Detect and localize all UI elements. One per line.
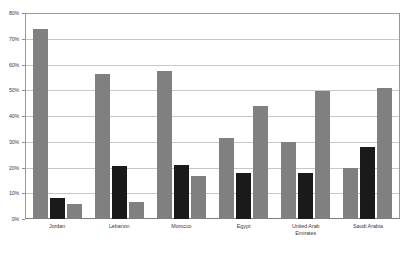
bar [50, 198, 65, 219]
bar [67, 204, 82, 219]
bar-chart: 80%70%60%50%40%30%20%10%0% JordanLebanon… [0, 0, 411, 255]
bar [191, 176, 206, 219]
bar [219, 138, 234, 219]
x-tick-label: Lebanon [88, 223, 150, 230]
x-axis: JordanLebanonMoroccoEgyptUnited ArabEmir… [26, 223, 399, 253]
x-tick-label: Jordan [26, 223, 88, 230]
x-tick-label: United ArabEmirates [275, 223, 337, 238]
y-tick-label: 10% [9, 190, 19, 196]
x-tick-label: Egypt [213, 223, 275, 230]
bar-group [275, 14, 337, 219]
y-tick-label: 60% [9, 62, 19, 68]
bar [343, 168, 358, 219]
bar-group [213, 14, 275, 219]
bar-group [337, 14, 399, 219]
bar [157, 71, 172, 219]
bar [236, 173, 251, 219]
bar [95, 74, 110, 219]
bar-group [88, 14, 150, 219]
x-tick-label-line: Egypt [213, 223, 275, 230]
bars-layer [26, 14, 399, 219]
bar [377, 88, 392, 219]
x-tick-label: Morocco [150, 223, 212, 230]
y-axis: 80%70%60%50%40%30%20%10%0% [0, 0, 25, 255]
bar [315, 91, 330, 219]
y-tick-label: 70% [9, 36, 19, 42]
bar [298, 173, 313, 219]
bar [112, 166, 127, 219]
x-tick-label: Saudi Arabia [337, 223, 399, 230]
x-tick-label-line: Emirates [275, 230, 337, 237]
x-tick-label-line: Morocco [150, 223, 212, 230]
bar-group [26, 14, 88, 219]
y-tick-mark [22, 219, 25, 220]
x-tick-label-line: United Arab [275, 223, 337, 230]
y-tick-label: 20% [9, 165, 19, 171]
x-tick-label-line: Lebanon [88, 223, 150, 230]
x-tick-label-line: Jordan [26, 223, 88, 230]
bar [281, 142, 296, 219]
bar [360, 147, 375, 219]
x-tick-label-line: Saudi Arabia [337, 223, 399, 230]
y-tick-label: 0% [12, 216, 19, 222]
y-tick-label: 30% [9, 139, 19, 145]
bar [33, 29, 48, 219]
y-tick-label: 80% [9, 10, 19, 16]
bar-group [150, 14, 212, 219]
bar [174, 165, 189, 219]
y-tick-label: 40% [9, 113, 19, 119]
y-tick-label: 50% [9, 87, 19, 93]
bar [129, 202, 144, 219]
bar [253, 106, 268, 219]
